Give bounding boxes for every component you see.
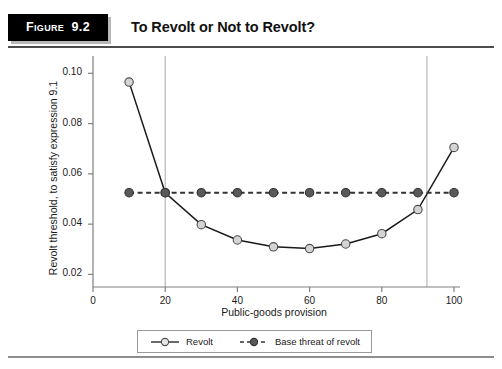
series-line-0 bbox=[129, 82, 454, 248]
y-axis-title: Revolt threshold, to satisfy expression … bbox=[47, 62, 59, 294]
data-point-s0-9 bbox=[450, 143, 458, 151]
legend-marker-base-threat bbox=[239, 336, 269, 348]
data-point-s1-9 bbox=[450, 189, 458, 197]
data-point-s0-4 bbox=[269, 243, 277, 251]
y-tick-label-0: 0.02 bbox=[46, 267, 82, 278]
x-tick-label-5: 100 bbox=[434, 295, 474, 306]
legend-item-base-threat: Base threat of revolt bbox=[239, 336, 360, 348]
y-tick-label-4: 0.10 bbox=[46, 66, 82, 77]
data-point-s1-4 bbox=[269, 189, 277, 197]
legend-label-base-threat: Base threat of revolt bbox=[275, 336, 360, 347]
data-point-s0-8 bbox=[414, 205, 422, 213]
data-point-s1-6 bbox=[342, 189, 350, 197]
data-point-s0-0 bbox=[125, 78, 133, 86]
data-point-s1-2 bbox=[197, 189, 205, 197]
chart-canvas: Revolt threshold, to satisfy expression … bbox=[0, 0, 502, 369]
data-point-s0-5 bbox=[305, 244, 313, 252]
x-tick-label-4: 80 bbox=[362, 295, 402, 306]
data-point-s1-1 bbox=[161, 189, 169, 197]
y-tick-label-3: 0.08 bbox=[46, 117, 82, 128]
data-point-s1-8 bbox=[414, 189, 422, 197]
y-tick-label-1: 0.04 bbox=[46, 217, 82, 228]
data-point-s1-7 bbox=[378, 189, 386, 197]
legend-item-revolt: Revolt bbox=[150, 336, 213, 348]
figure-container: Figure 9.2 To Revolt or Not to Revolt? R… bbox=[0, 0, 502, 369]
legend-items: Revolt Base threat of revolt bbox=[138, 331, 371, 352]
data-point-s0-7 bbox=[378, 230, 386, 238]
data-point-s0-3 bbox=[233, 236, 241, 244]
data-point-s1-3 bbox=[233, 189, 241, 197]
x-axis-title: Public-goods provision bbox=[93, 306, 455, 318]
y-tick-label-2: 0.06 bbox=[46, 167, 82, 178]
data-point-s0-6 bbox=[342, 240, 350, 248]
x-tick-label-2: 40 bbox=[217, 295, 257, 306]
data-point-s1-5 bbox=[305, 189, 313, 197]
chart-legend: Revolt Base threat of revolt bbox=[137, 330, 372, 353]
data-point-s1-0 bbox=[125, 189, 133, 197]
x-tick-label-3: 60 bbox=[290, 295, 330, 306]
x-tick-label-1: 20 bbox=[145, 295, 185, 306]
x-tick-label-0: 0 bbox=[73, 295, 113, 306]
data-point-s0-2 bbox=[197, 220, 205, 228]
legend-label-revolt: Revolt bbox=[186, 336, 213, 347]
footer-divider bbox=[8, 356, 494, 358]
legend-marker-revolt bbox=[150, 336, 180, 348]
